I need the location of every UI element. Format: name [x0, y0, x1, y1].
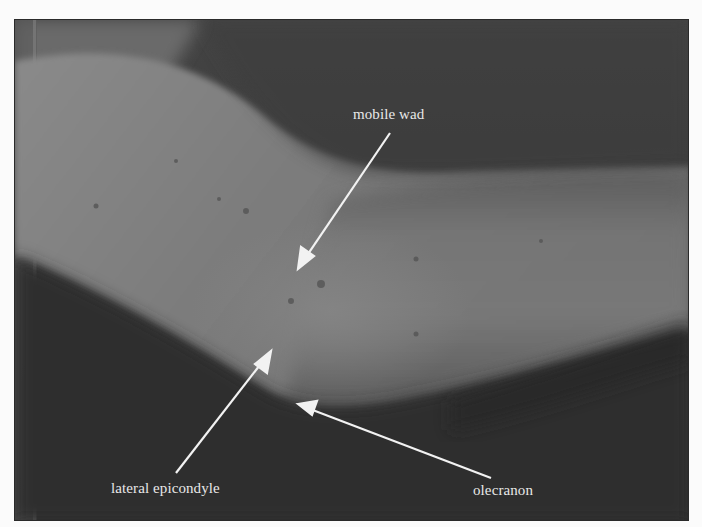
elbow-photograph: mobile wad lateral epicondyle olecranon [14, 19, 689, 521]
photo-canvas [15, 20, 689, 521]
label-olecranon: olecranon [473, 482, 533, 499]
label-mobile-wad: mobile wad [353, 106, 424, 123]
label-lateral-epicondyle: lateral epicondyle [111, 480, 220, 497]
